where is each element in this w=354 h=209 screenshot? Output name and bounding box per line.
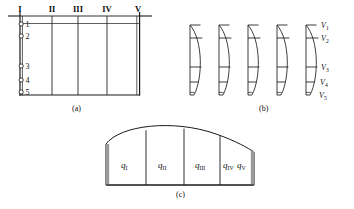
measurement-point-3: 3 [19, 62, 29, 71]
svg-text:5: 5 [26, 88, 30, 97]
vertical-label-IV: IV [102, 4, 112, 14]
measurement-point-5: 5 [19, 88, 29, 97]
measurement-point-1: 1 [19, 20, 29, 29]
svg-text:4: 4 [26, 76, 30, 85]
velocity-label-V5: V5 [319, 91, 327, 101]
velocity-profile-5 [306, 25, 318, 95]
caption-a: (a) [72, 104, 81, 113]
panel-b-drawing: V1 V2 V3 V4 V5 [176, 0, 354, 120]
discharge-dome-outline [106, 126, 254, 185]
caption-b: (b) [259, 104, 268, 113]
velocity-label-V3: V3 [321, 63, 329, 73]
left-edge-shade [106, 144, 109, 185]
velocity-profile-1 [190, 25, 202, 95]
velocity-profile-4 [277, 25, 289, 95]
right-edge-shade [251, 151, 254, 185]
panel-a-cross-section: I II III IV V 1 2 3 4 5 [0, 0, 170, 120]
velocity-profile-2 [219, 25, 231, 95]
panel-b-velocity-profiles: V1 V2 V3 V4 V5 [176, 0, 354, 120]
svg-text:1: 1 [26, 20, 30, 29]
svg-text:3: 3 [26, 62, 30, 71]
vertical-label-I: I [18, 4, 22, 14]
measurement-point-2: 2 [19, 32, 29, 41]
velocity-profile-3 [248, 25, 260, 95]
panel-a-drawing: I II III IV V 1 2 3 4 5 [0, 0, 170, 120]
vertical-label-V: V [135, 4, 142, 14]
measurement-point-4: 4 [19, 76, 29, 85]
velocity-label-V1: V1 [321, 21, 329, 31]
svg-text:2: 2 [26, 32, 30, 41]
vertical-label-III: III [73, 4, 84, 14]
velocity-label-V4: V4 [320, 78, 328, 88]
caption-c: (c) [176, 190, 185, 199]
velocity-label-V2: V2 [321, 34, 329, 44]
vertical-label-II: II [49, 4, 56, 14]
